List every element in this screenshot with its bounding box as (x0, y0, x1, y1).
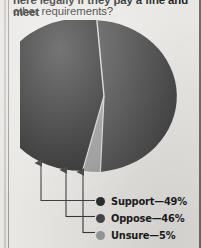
poll-chart-page: here legally if they pay a fine and meet… (0, 0, 201, 248)
pie-chart-svg (20, 20, 188, 172)
legend-dot-oppose-icon (96, 214, 105, 223)
legend-dot-unsure-icon (96, 231, 105, 240)
legend-dot-support-icon (96, 197, 105, 206)
column-rule-inner (8, 0, 9, 248)
pie-chart (20, 20, 188, 172)
legend-item-unsure: Unsure—5% (96, 227, 193, 243)
question-line-2: other requirements? (13, 5, 193, 17)
legend-label-support: Support—49% (111, 195, 187, 207)
legend-label-unsure: Unsure—5% (111, 229, 175, 241)
legend-item-support: Support—49% (96, 193, 193, 209)
legend-label-oppose: Oppose—46% (111, 212, 184, 224)
legend-item-oppose: Oppose—46% (96, 210, 193, 226)
chart-legend: Support—49% Oppose—46% Unsure—5% (96, 193, 193, 244)
column-rule-outer (4, 0, 6, 248)
pie-slice-oppose (97, 20, 177, 172)
page-edge-rule (199, 0, 201, 248)
